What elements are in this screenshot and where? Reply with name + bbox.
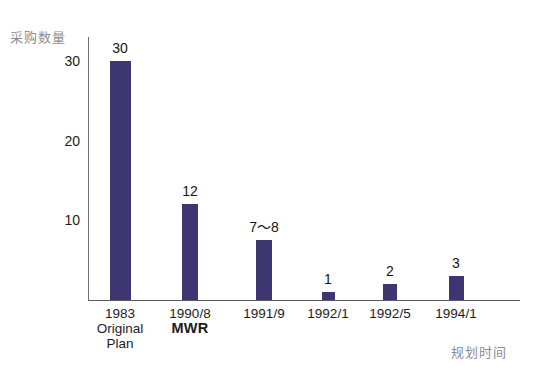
bar-chart: 采购数量 规划时间 302010 30127～8123 1983Original…	[0, 0, 545, 376]
y-axis-title: 采购数量	[10, 27, 66, 46]
bar-1994-01[interactable]: 3	[449, 37, 464, 300]
bar-1990-08-value-label: 12	[182, 184, 198, 198]
bar-1990-08[interactable]: 12	[182, 37, 198, 300]
y-axis-tick-label: 30	[44, 53, 80, 69]
bar-1992-05[interactable]: 2	[383, 37, 397, 300]
bar-1994-01-value-label: 3	[452, 256, 460, 270]
bar-1992-01-rect[interactable]	[322, 292, 335, 300]
y-axis-tick-label: 10	[44, 212, 80, 228]
bar-1992-01-value-label: 1	[324, 272, 332, 286]
bar-1992-01[interactable]: 1	[322, 37, 335, 300]
category-label-line: 1994/1	[411, 306, 501, 321]
y-axis-tick-label: 20	[44, 133, 80, 149]
bar-1990-08-rect[interactable]	[182, 204, 198, 300]
bar-1991-09[interactable]: 7～8	[256, 37, 272, 300]
category-label-line: Plan	[75, 336, 165, 351]
bar-1983-rect[interactable]	[110, 61, 131, 300]
bar-1983-value-label: 30	[112, 41, 128, 55]
bar-1994-01-rect[interactable]	[449, 276, 464, 300]
bar-1983[interactable]: 30	[110, 37, 131, 300]
category-label-6: 1994/1	[411, 306, 501, 321]
x-axis-line	[88, 300, 520, 301]
x-axis-category-labels: 1983OriginalPlan1990/8MWR1991/91992/1199…	[88, 306, 520, 376]
bar-1991-09-rect[interactable]	[256, 240, 272, 300]
bar-1992-05-value-label: 2	[386, 264, 394, 278]
plot-area: 30127～8123	[88, 37, 520, 300]
bar-1991-09-value-label: 7～8	[249, 220, 279, 234]
bar-1992-05-rect[interactable]	[383, 284, 397, 300]
category-label-line: MWR	[145, 321, 235, 336]
